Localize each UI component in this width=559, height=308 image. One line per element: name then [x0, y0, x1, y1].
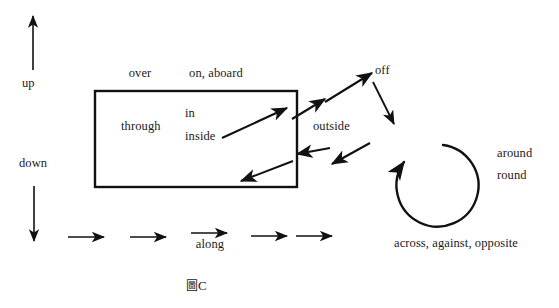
figure-caption-cjk: 圖 [186, 279, 198, 293]
label-through: through [121, 119, 161, 133]
off-down-arrow [373, 82, 394, 124]
label-inside: inside [185, 129, 215, 143]
outside-into-box-arrow [297, 148, 330, 154]
label-outside: outside [313, 119, 350, 133]
label-along: along [196, 237, 224, 251]
exit-box-lower-left-arrow [241, 161, 293, 181]
around-round-circular-arrow [397, 145, 479, 227]
figure-caption: 圖C [186, 276, 207, 294]
label-over: over [129, 66, 152, 80]
label-up: up [22, 76, 35, 90]
into-box-arrow [222, 108, 287, 138]
diagram-canvas [0, 0, 559, 308]
label-off: off [375, 63, 390, 77]
label-round: round [497, 168, 527, 182]
label-across-against-opposite: across, against, opposite [394, 236, 518, 250]
label-around: around [497, 146, 532, 160]
label-down: down [19, 156, 47, 170]
off-up-arrow [325, 73, 372, 102]
outside-return-arrow [332, 143, 370, 164]
label-on-aboard: on, aboard [189, 66, 243, 80]
figure-caption-suffix: C [198, 278, 207, 293]
label-in: in [185, 106, 195, 120]
prepositions-of-movement-diagram: up down over on, aboard through in insid… [0, 0, 559, 308]
